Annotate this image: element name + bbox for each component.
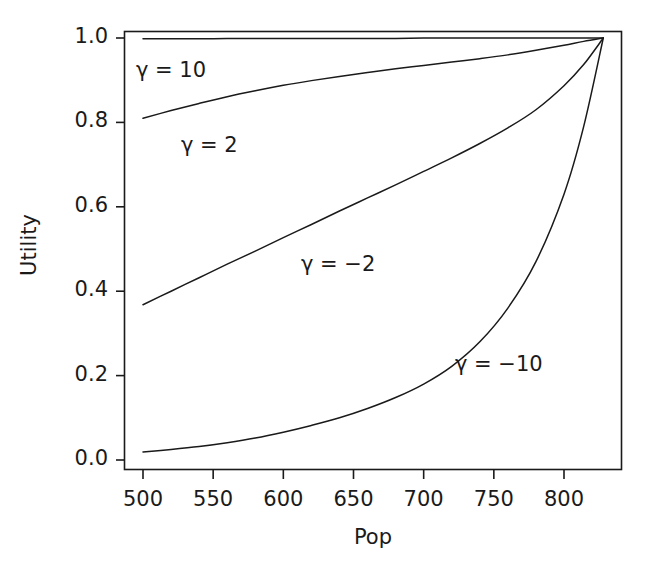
plot-border bbox=[125, 32, 622, 470]
data-curves bbox=[143, 38, 603, 452]
y-tick-label: 0.4 bbox=[34, 277, 108, 301]
y-tick-label: 0.0 bbox=[34, 446, 108, 470]
y-tick-label: 0.6 bbox=[34, 193, 108, 217]
x-axis-title: Pop bbox=[233, 525, 513, 549]
y-tick-label: 1.0 bbox=[34, 24, 108, 48]
series-annotation-gamma-neg-2: γ = −2 bbox=[301, 252, 375, 276]
curve-gamma-2 bbox=[143, 38, 603, 118]
x-axis-ticks bbox=[143, 469, 564, 479]
y-axis-title: Utility bbox=[17, 155, 41, 335]
chart-figure: 1.0 0.8 0.6 0.4 0.2 0.0 500 550 600 650 … bbox=[0, 0, 654, 588]
y-tick-label: 0.2 bbox=[34, 362, 108, 386]
series-annotation-gamma-neg-10: γ = −10 bbox=[455, 352, 543, 376]
y-axis-ticks bbox=[116, 38, 124, 460]
series-annotation-gamma-2: γ = 2 bbox=[181, 133, 238, 157]
x-tick-label: 800 bbox=[519, 487, 609, 511]
curve-gamma-10 bbox=[143, 38, 603, 39]
y-tick-label: 0.8 bbox=[34, 108, 108, 132]
series-annotation-gamma-10: γ = 10 bbox=[136, 58, 206, 82]
